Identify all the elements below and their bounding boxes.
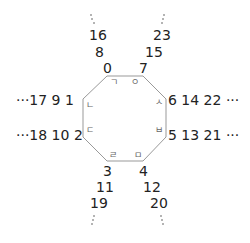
jamo-ieung: ㅇ bbox=[131, 78, 139, 87]
label-19: 19 bbox=[90, 196, 108, 210]
label-20: 20 bbox=[150, 196, 168, 210]
row-right-upper: 6 14 22 ··· bbox=[168, 93, 239, 107]
jamo-rieul: ㄹ bbox=[109, 151, 117, 160]
label-23: 23 bbox=[153, 28, 171, 42]
label-11: 11 bbox=[96, 180, 114, 194]
jamo-giyeok: ㄱ bbox=[110, 78, 118, 87]
jamo-bieup: ㅂ bbox=[155, 126, 163, 135]
label-7: 7 bbox=[139, 61, 148, 75]
row-left-upper: ···17 9 1 bbox=[16, 93, 74, 107]
row-right-lower: 5 13 21 ··· bbox=[168, 128, 239, 142]
jamo-siot: ㅅ bbox=[155, 98, 163, 107]
label-8: 8 bbox=[95, 45, 104, 59]
jamo-digeut: ㄷ bbox=[86, 126, 94, 135]
label-16: 16 bbox=[89, 28, 107, 42]
label-12: 12 bbox=[143, 180, 161, 194]
label-0: 0 bbox=[103, 61, 112, 75]
octagon bbox=[0, 0, 250, 243]
jamo-nieun: ㄴ bbox=[86, 101, 94, 110]
label-15: 15 bbox=[145, 45, 163, 59]
label-3: 3 bbox=[103, 164, 112, 178]
label-4: 4 bbox=[139, 164, 148, 178]
jamo-mieum: ㅁ bbox=[134, 151, 142, 160]
row-left-lower: ···18 10 2 bbox=[16, 128, 83, 142]
